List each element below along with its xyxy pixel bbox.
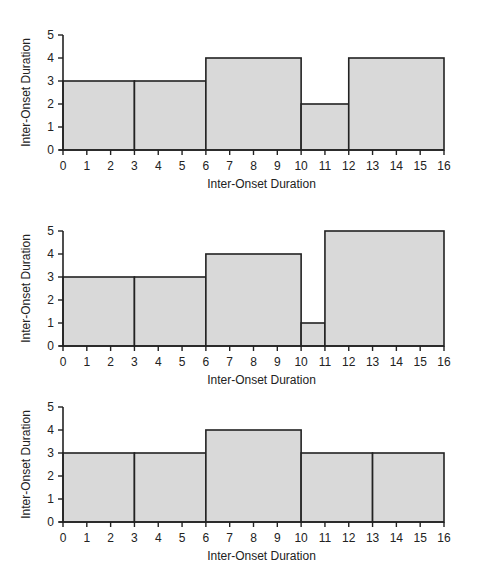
x-tick-label: 4 (155, 531, 162, 545)
y-tick-label: 0 (47, 515, 54, 529)
x-tick-label: 3 (131, 531, 138, 545)
bar (134, 453, 205, 522)
x-tick-label: 11 (319, 159, 332, 173)
y-tick-label: 3 (47, 446, 54, 460)
x-tick-label: 5 (179, 531, 186, 545)
y-tick-label: 3 (47, 74, 54, 88)
x-tick-label: 4 (155, 159, 162, 173)
y-tick-label: 3 (47, 270, 54, 284)
x-tick-label: 15 (414, 355, 428, 369)
x-tick-label: 6 (203, 531, 210, 545)
x-tick-label: 2 (107, 531, 114, 545)
x-axis-title: Inter-Onset Duration (207, 373, 316, 387)
chart-panel-2: 012345012345678910111213141516Inter-Onse… (19, 224, 451, 387)
x-tick-label: 13 (366, 355, 380, 369)
x-tick-label: 13 (366, 531, 380, 545)
bar (134, 277, 205, 346)
x-tick-label: 9 (274, 159, 281, 173)
x-tick-label: 16 (437, 159, 451, 173)
x-tick-label: 7 (226, 355, 233, 369)
y-axis-title: Inter-Onset Duration (19, 410, 33, 519)
x-tick-label: 14 (390, 355, 404, 369)
bar (373, 453, 444, 522)
chart-panel-3: 012345012345678910111213141516Inter-Onse… (19, 400, 451, 563)
y-tick-label: 4 (47, 51, 54, 65)
bars (63, 231, 444, 346)
x-tick-label: 5 (179, 159, 186, 173)
x-tick-label: 12 (342, 159, 356, 173)
x-tick-label: 10 (294, 531, 308, 545)
x-tick-label: 6 (203, 159, 210, 173)
bar (134, 81, 205, 150)
bar (63, 81, 134, 150)
y-tick-label: 5 (47, 28, 54, 42)
x-tick-label: 8 (250, 355, 257, 369)
x-tick-label: 2 (107, 355, 114, 369)
y-tick-label: 4 (47, 247, 54, 261)
y-axis-title: Inter-Onset Duration (19, 234, 33, 343)
bar (301, 323, 325, 346)
histogram-figure: 012345012345678910111213141516Inter-Onse… (0, 0, 478, 583)
x-tick-label: 0 (60, 355, 67, 369)
bar (349, 58, 444, 150)
x-tick-label: 3 (131, 355, 138, 369)
x-tick-label: 7 (226, 159, 233, 173)
y-tick-label: 1 (47, 316, 54, 330)
x-tick-label: 1 (83, 159, 90, 173)
x-tick-label: 10 (294, 355, 308, 369)
bar (206, 254, 301, 346)
x-tick-label: 8 (250, 531, 257, 545)
x-tick-label: 9 (274, 531, 281, 545)
bars (63, 430, 444, 522)
x-tick-label: 14 (390, 159, 404, 173)
y-tick-label: 1 (47, 492, 54, 506)
x-tick-label: 10 (294, 159, 308, 173)
chart-panel-1: 012345012345678910111213141516Inter-Onse… (19, 28, 451, 191)
bar (206, 430, 301, 522)
bar (63, 277, 134, 346)
x-tick-label: 4 (155, 355, 162, 369)
bar (301, 453, 372, 522)
y-tick-label: 0 (47, 339, 54, 353)
x-tick-label: 12 (342, 355, 356, 369)
y-tick-label: 2 (47, 97, 54, 111)
x-tick-label: 11 (319, 531, 332, 545)
y-tick-label: 2 (47, 293, 54, 307)
x-tick-label: 15 (414, 159, 428, 173)
x-tick-label: 5 (179, 355, 186, 369)
x-tick-label: 16 (437, 355, 451, 369)
y-axis-title: Inter-Onset Duration (19, 38, 33, 147)
x-tick-label: 0 (60, 159, 67, 173)
bar (206, 58, 301, 150)
x-tick-label: 9 (274, 355, 281, 369)
x-tick-label: 16 (437, 531, 451, 545)
x-tick-label: 14 (390, 531, 404, 545)
x-tick-label: 3 (131, 159, 138, 173)
bars (63, 58, 444, 150)
x-tick-label: 11 (319, 355, 332, 369)
bar (301, 104, 349, 150)
x-tick-label: 15 (414, 531, 428, 545)
y-tick-label: 2 (47, 469, 54, 483)
x-axis-title: Inter-Onset Duration (207, 549, 316, 563)
x-axis-title: Inter-Onset Duration (207, 177, 316, 191)
y-tick-label: 5 (47, 400, 54, 414)
y-tick-label: 4 (47, 423, 54, 437)
x-tick-label: 13 (366, 159, 380, 173)
x-tick-label: 8 (250, 159, 257, 173)
x-tick-label: 1 (83, 531, 90, 545)
x-tick-label: 2 (107, 159, 114, 173)
x-tick-label: 0 (60, 531, 67, 545)
x-tick-label: 1 (83, 355, 90, 369)
bar (325, 231, 444, 346)
x-tick-label: 12 (342, 531, 356, 545)
y-tick-label: 0 (47, 143, 54, 157)
x-tick-label: 7 (226, 531, 233, 545)
x-tick-label: 6 (203, 355, 210, 369)
bar (63, 453, 134, 522)
y-tick-label: 5 (47, 224, 54, 238)
y-tick-label: 1 (47, 120, 54, 134)
